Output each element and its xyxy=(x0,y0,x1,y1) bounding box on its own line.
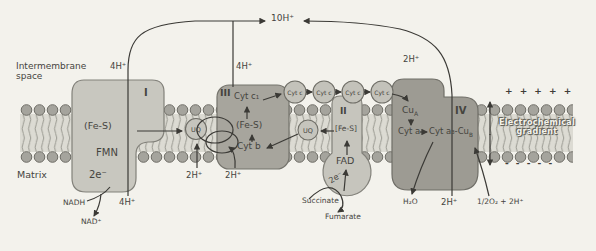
complex-ii-numeral: II xyxy=(340,107,347,117)
cua-sub: A xyxy=(414,110,418,117)
cyt-c-label: Cyt c xyxy=(287,89,302,97)
label-10h-total: 10H⁺ xyxy=(271,14,294,24)
cub-sub: B xyxy=(469,132,473,138)
complex-i-electrons: 2e⁻ xyxy=(89,169,107,180)
complex-i-numeral: I xyxy=(144,87,148,98)
cyta3-label: Cyt a₃- xyxy=(429,126,458,136)
etc-figure: UQ UQ Cyt c Cyt c Cyt c Cyt c xyxy=(0,0,596,251)
label-4h-complex-iii-top: 4H⁺ xyxy=(236,62,252,71)
label-2h-uq-right: 2H⁺ xyxy=(225,171,241,180)
complex-iv-cyta3-cub: Cyt a₃-CuB xyxy=(429,127,473,138)
label-h2o: H₂O xyxy=(403,198,418,206)
complex-iii-cytb: Cyt b xyxy=(237,142,261,152)
label-4h-complex-i-bottom: 4H⁺ xyxy=(119,198,135,207)
complex-i-shape xyxy=(72,80,164,192)
complex-iii-numeral: III xyxy=(220,88,231,98)
label-4h-complex-i-top: 4H⁺ xyxy=(110,62,126,71)
label-2h-complex-iv-bottom: 2H⁺ xyxy=(441,198,457,207)
label-oxygen: 1/2O₂ + 2H⁺ xyxy=(477,198,523,206)
label-fumarate: Fumarate xyxy=(325,213,361,221)
complex-ii-fes: [Fe-S] xyxy=(335,125,357,133)
complex-i-fes: (Fe-S) xyxy=(84,121,112,131)
ubiquinone-right: UQ xyxy=(298,120,318,140)
label-nad: NAD⁺ xyxy=(81,218,101,226)
label-2h-complex-iv-top: 2H⁺ xyxy=(403,55,419,64)
minus-charges-row: - - - - - xyxy=(505,159,554,169)
cyt-c-label: Cyt c xyxy=(316,89,331,97)
complex-iv-cua: CuA xyxy=(402,106,418,118)
electrochemical-gradient-label: Electrochemical gradient xyxy=(497,119,577,137)
complex-iii-fes: (Fe-S) xyxy=(236,121,262,131)
uq-right-label: UQ xyxy=(303,127,313,135)
ubiquinone-left: UQ xyxy=(186,119,207,140)
complex-iv-numeral: IV xyxy=(455,105,466,116)
label-nadh: NADH xyxy=(63,199,85,207)
label-2h-uq-left: 2H⁺ xyxy=(186,171,202,180)
cua-base: Cu xyxy=(402,105,414,115)
gradient-line2: gradient xyxy=(497,128,577,137)
cyt-c-label: Cyt c xyxy=(345,89,360,97)
complex-iii-cytc1: Cyt c₁ xyxy=(234,92,259,101)
complex-ii-fad: FAD xyxy=(336,156,354,166)
region-matrix: Matrix xyxy=(17,170,47,180)
plus-charges-row: + + + + + xyxy=(505,87,573,97)
label-succinate: Succinate xyxy=(302,197,339,205)
complex-i-fmn: FMN xyxy=(96,147,118,158)
region-intermembrane-space: Intermembrane space xyxy=(16,62,86,82)
uq-left-label: UQ xyxy=(191,126,201,134)
intermembrane-line2: space xyxy=(16,72,86,82)
complex-iv-cyta: Cyt a xyxy=(398,127,420,136)
cub-base: Cu xyxy=(458,126,469,136)
cyt-c-label: Cyt c xyxy=(374,89,389,97)
